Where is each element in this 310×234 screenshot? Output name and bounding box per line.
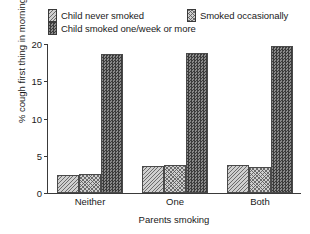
legend-label-series-1: Child never smoked <box>61 10 144 22</box>
y-tick-label: 20 <box>31 39 42 50</box>
legend-swatch-icon-series-1 <box>48 9 57 22</box>
x-axis-category-label: One <box>142 196 208 207</box>
y-tick-label: 15 <box>31 76 42 87</box>
x-axis-label: Parents smoking <box>47 214 301 225</box>
bar <box>164 165 186 193</box>
legend-entry-smoked-occasionally: Smoked occasionally <box>187 9 306 22</box>
bar-group-bars <box>227 44 293 193</box>
x-axis-category-label: Both <box>227 196 293 207</box>
bar <box>186 53 208 193</box>
bar <box>142 166 164 193</box>
bar <box>57 175 79 193</box>
bar-group-bars <box>142 44 208 193</box>
legend-entry-child-smoked-weekly: Child smoked one/week or more <box>48 22 196 35</box>
y-tick-mark <box>44 81 47 82</box>
legend-label-series-2: Smoked occasionally <box>200 10 288 22</box>
y-tick-mark <box>44 119 47 120</box>
y-tick-label: 10 <box>31 113 42 124</box>
bar <box>249 167 271 193</box>
legend-swatch-icon-series-2 <box>187 9 196 22</box>
legend-row-2: Child smoked one/week or more <box>48 22 306 35</box>
y-tick-mark <box>44 44 47 45</box>
legend-entry-child-never-smoked: Child never smoked <box>48 9 187 22</box>
y-tick-mark <box>44 193 47 194</box>
y-tick-label: 0 <box>37 188 42 199</box>
bar-chart-figure: Child never smoked Smoked occasionally C… <box>0 0 310 234</box>
legend-label-series-3: Child smoked one/week or more <box>61 23 196 35</box>
bar <box>271 46 293 193</box>
chart-legend: Child never smoked Smoked occasionally C… <box>48 9 306 35</box>
bar-group: One <box>142 44 208 193</box>
bar-group: Neither <box>57 44 123 193</box>
plot-area: 05101520 NeitherOneBoth <box>47 44 301 194</box>
legend-swatch-icon-series-3 <box>48 22 57 35</box>
bar <box>227 165 249 193</box>
bar <box>79 174 101 193</box>
y-axis-label: % cough first thing in morning <box>16 0 27 136</box>
y-tick-label: 5 <box>37 150 42 161</box>
bar <box>101 54 123 193</box>
y-tick-mark <box>44 156 47 157</box>
y-axis-line <box>47 44 48 194</box>
bar-group: Both <box>227 44 293 193</box>
bar-group-bars <box>57 44 123 193</box>
x-axis-category-label: Neither <box>57 196 123 207</box>
legend-row-1: Child never smoked Smoked occasionally <box>48 9 306 22</box>
x-axis-line <box>47 193 301 194</box>
